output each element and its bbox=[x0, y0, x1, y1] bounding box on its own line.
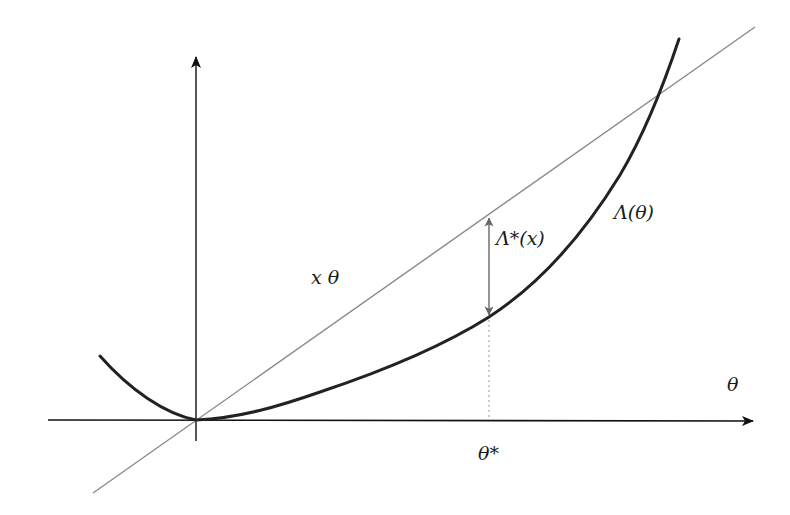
line-label: x θ bbox=[311, 268, 339, 287]
curve-label: Λ(θ) bbox=[614, 203, 654, 222]
diagram-canvas: x θ Λ*(x) Λ(θ) θ θ* bbox=[0, 0, 790, 515]
line-x-theta bbox=[93, 27, 755, 493]
curve-lambda bbox=[100, 39, 679, 420]
x-axis bbox=[48, 420, 753, 421]
x-axis-label: θ bbox=[727, 375, 738, 394]
diagram-svg bbox=[0, 0, 790, 515]
gap-label: Λ*(x) bbox=[496, 229, 545, 248]
optimum-label: θ* bbox=[478, 444, 499, 463]
